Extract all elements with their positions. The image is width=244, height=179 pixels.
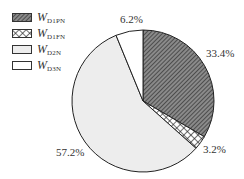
legend-label: WD3N [37,58,61,73]
legend-label: WD2N [37,42,61,57]
slice-label-d2n: 57.2% [56,146,84,158]
pie-slices [72,30,214,172]
slice-label-d1fn: 3.2% [203,143,226,155]
legend-label: WD1PN [37,10,65,25]
crosshatch-swatch-icon [12,29,32,38]
white-swatch-icon [12,61,32,70]
legend-label: WD1FN [37,26,65,41]
light-gray-swatch-icon [12,45,32,54]
slice-label-d3n: 6.2% [120,13,143,25]
slice-label-d1pn: 33.4% [206,47,234,59]
hatch-swatch-icon [12,13,32,22]
